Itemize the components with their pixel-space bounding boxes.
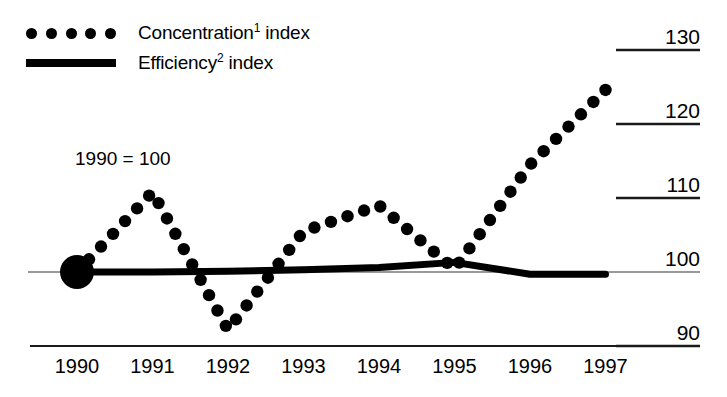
concentration-index-line bbox=[71, 84, 612, 332]
legend-item-efficiency: Efficiency2 index bbox=[26, 48, 356, 78]
legend-dot-icon bbox=[46, 28, 57, 39]
data-point-dot bbox=[178, 243, 190, 255]
data-point-dot bbox=[251, 285, 263, 297]
x-axis-tick-label: 1997 bbox=[570, 355, 642, 378]
data-point-dot bbox=[186, 258, 198, 270]
data-point-dot bbox=[587, 96, 599, 108]
data-point-dot bbox=[203, 289, 215, 301]
legend-dot-icon bbox=[85, 28, 96, 39]
data-point-dot bbox=[401, 223, 413, 235]
legend-dot-icon bbox=[66, 28, 77, 39]
data-point-dot bbox=[599, 84, 611, 96]
legend-label-efficiency: Efficiency2 index bbox=[122, 51, 273, 74]
legend-label-text: Concentration bbox=[138, 23, 254, 44]
dotted-line-swatch-icon bbox=[26, 28, 122, 39]
data-point-dot bbox=[294, 230, 306, 242]
origin-marker bbox=[60, 255, 94, 289]
x-axis-tick-label: 1994 bbox=[343, 355, 415, 378]
legend-dot-icon bbox=[105, 28, 116, 39]
data-point-dot bbox=[484, 214, 496, 226]
data-point-dot bbox=[387, 212, 399, 224]
y-axis-tick-label: 110 bbox=[618, 173, 700, 197]
data-point-dot bbox=[341, 210, 353, 222]
x-axis-tick-label: 1990 bbox=[41, 355, 113, 378]
data-point-dot bbox=[358, 204, 370, 216]
data-point-dot bbox=[107, 228, 119, 240]
data-point-dot bbox=[525, 157, 537, 169]
legend-bar-icon bbox=[26, 59, 116, 67]
legend-item-concentration: Concentration1 index bbox=[26, 18, 356, 48]
legend-dot-icon bbox=[26, 28, 37, 39]
data-point-dot bbox=[211, 304, 223, 316]
x-axis-tick-label: 1991 bbox=[117, 355, 189, 378]
data-point-dot bbox=[504, 185, 516, 197]
data-point-dot bbox=[131, 202, 143, 214]
x-axis-tick-label: 1992 bbox=[192, 355, 264, 378]
x-axis-tick-label: 1993 bbox=[268, 355, 340, 378]
data-point-dot bbox=[308, 221, 320, 233]
data-point-dot bbox=[441, 257, 453, 269]
solid-line-swatch-icon bbox=[26, 59, 122, 67]
legend-label-suffix: index bbox=[260, 23, 310, 44]
y-axis-tick-label: 100 bbox=[618, 247, 700, 271]
data-point-dot bbox=[575, 108, 587, 120]
data-point-dot bbox=[473, 228, 485, 240]
y-axis-tick-label: 130 bbox=[618, 25, 700, 49]
data-point-dot bbox=[194, 274, 206, 286]
data-point-dot bbox=[95, 240, 107, 252]
gridlines-group bbox=[616, 50, 700, 346]
legend-label-text: Efficiency bbox=[138, 53, 217, 74]
data-point-dot bbox=[325, 216, 337, 228]
data-point-dot bbox=[240, 299, 252, 311]
data-point-dot bbox=[152, 197, 164, 209]
data-point-dot bbox=[283, 244, 295, 256]
chart-container: Concentration1 index Efficiency2 index 1… bbox=[0, 0, 727, 397]
data-point-dot bbox=[428, 245, 440, 257]
x-axis-tick-label: 1996 bbox=[494, 355, 566, 378]
chart-legend: Concentration1 index Efficiency2 index bbox=[26, 18, 356, 78]
data-point-dot bbox=[463, 242, 475, 254]
data-point-dot bbox=[230, 313, 242, 325]
data-point-dot bbox=[515, 171, 527, 183]
data-point-dot bbox=[262, 271, 274, 283]
base-index-annotation: 1990 = 100 bbox=[75, 148, 171, 170]
data-point-dot bbox=[272, 258, 284, 270]
legend-label-suffix: index bbox=[223, 53, 273, 74]
data-point-dot bbox=[119, 215, 131, 227]
legend-label-concentration: Concentration1 index bbox=[122, 21, 310, 44]
data-point-dot bbox=[550, 133, 562, 145]
y-axis-tick-label: 120 bbox=[618, 99, 700, 123]
data-point-dot bbox=[161, 212, 173, 224]
x-axis-tick-label: 1995 bbox=[419, 355, 491, 378]
data-point-dot bbox=[453, 256, 465, 268]
data-point-dot bbox=[374, 200, 386, 212]
data-point-dot bbox=[414, 234, 426, 246]
origin-marker bbox=[60, 255, 94, 289]
data-point-dot bbox=[537, 145, 549, 157]
y-axis-tick-label: 90 bbox=[618, 321, 700, 345]
data-point-dot bbox=[169, 228, 181, 240]
data-point-dot bbox=[494, 200, 506, 212]
data-point-dot bbox=[562, 120, 574, 132]
